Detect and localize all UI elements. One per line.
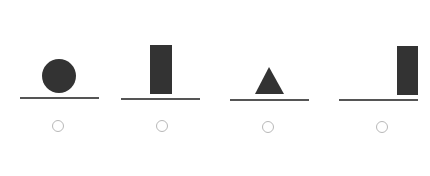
triangle-shape: [255, 67, 284, 94]
answer-option-1: Circle on line: [0, 0, 110, 176]
radio-option-1[interactable]: [52, 120, 64, 132]
triangle-on-line-figure: [220, 0, 330, 110]
rectangle-shape: [397, 46, 418, 95]
radio-option-3[interactable]: [262, 121, 274, 133]
circle-shape: [42, 59, 76, 93]
answer-option-2: Rectangle on line: [110, 0, 220, 176]
answer-option-4: Rectangle at right end of line: [330, 0, 430, 176]
rectangle-shape: [150, 45, 172, 94]
rectangle-at-end-figure: [330, 0, 430, 110]
circle-on-line-figure: [0, 0, 110, 110]
radio-option-4[interactable]: [376, 121, 388, 133]
answer-option-3: Triangle on line: [220, 0, 330, 176]
rectangle-on-line-figure: [110, 0, 220, 110]
radio-option-2[interactable]: [156, 120, 168, 132]
